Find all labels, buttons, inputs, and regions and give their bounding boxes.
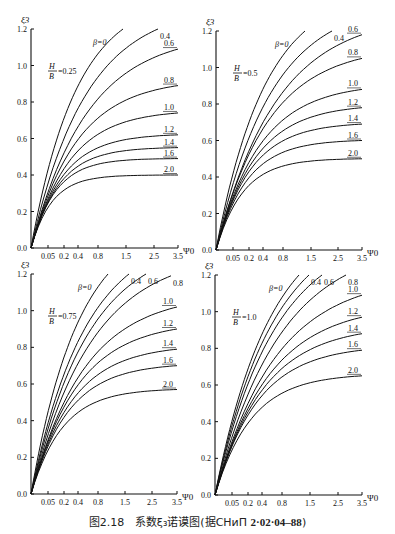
curve-label: 2.0 — [348, 366, 358, 375]
caption-title: 系数ξ₃诺谟图(据СНиП — [135, 516, 251, 529]
x-tick-label: 0.2 — [243, 499, 253, 508]
x-tick-label: 0.4 — [73, 498, 83, 507]
x-axis-label: Ψ0 — [367, 248, 379, 258]
y-tick-label: 0.2 — [201, 454, 211, 463]
x-tick-label: 0.8 — [277, 499, 287, 508]
curve-label: 2.0 — [163, 380, 173, 389]
curve-beta-1.0 — [31, 307, 177, 494]
y-axis-label: ξ3 — [21, 15, 30, 25]
y-tick-label: 0.0 — [17, 490, 27, 499]
param-numerator: H — [48, 62, 56, 71]
caption-close: ) — [302, 516, 306, 529]
chart-panel: 0.00.20.40.60.81.01.2ξ30.050.20.40.81.52… — [201, 261, 379, 508]
x-tick-label: 0.05 — [225, 499, 239, 508]
x-tick-label: 1.5 — [306, 254, 316, 263]
y-tick-label: 0.8 — [201, 344, 211, 353]
y-axis-label: ξ3 — [205, 261, 214, 271]
curve-label: 1.0 — [348, 285, 358, 294]
y-tick-label: 0.2 — [17, 208, 27, 217]
curve-label: β=0 — [274, 40, 288, 49]
nomogram-figure: 0.00.20.40.60.81.01.2ξ30.050.20.40.81.52… — [0, 0, 395, 534]
y-tick-label: 0.0 — [202, 246, 212, 255]
curve-beta-1.0 — [31, 113, 178, 248]
curve-label: 1.2 — [348, 307, 358, 316]
y-tick-label: 0.6 — [17, 135, 27, 144]
curve-label: β=0 — [268, 284, 282, 293]
x-tick-label: 2.5 — [333, 499, 343, 508]
param-value: =1.0 — [242, 313, 257, 322]
param-denominator: B — [233, 318, 238, 327]
curve-beta-0 — [31, 29, 123, 248]
param-denominator: B — [49, 317, 54, 326]
y-tick-label: 1.0 — [17, 307, 27, 316]
param-numerator: H — [48, 307, 56, 316]
y-tick-label: 1.2 — [17, 270, 27, 279]
y-axis-label: ξ3 — [21, 260, 30, 270]
curve-label: 0.4 — [334, 34, 344, 43]
y-tick-label: 0.0 — [17, 244, 27, 253]
x-tick-label: 3.5 — [357, 499, 367, 508]
x-tick-label: 3.5 — [173, 252, 183, 261]
x-tick-label: 0.05 — [226, 254, 240, 263]
x-tick-label: 0.4 — [257, 499, 267, 508]
y-tick-label: 1.0 — [201, 308, 211, 317]
x-tick-label: 0.2 — [59, 498, 69, 507]
x-tick-label: 0.4 — [73, 252, 83, 261]
curve-label: β=0 — [92, 38, 106, 47]
y-tick-label: 0.8 — [17, 98, 27, 107]
curve-label: 1.4 — [163, 339, 173, 348]
curve-label: 0.8 — [173, 279, 183, 288]
curve-label: 0.8 — [348, 48, 358, 57]
curve-label: 1.2 — [164, 125, 174, 134]
chart-panel: 0.00.20.40.60.81.01.2ξ30.050.20.40.81.52… — [17, 15, 195, 261]
param-denominator: B — [49, 72, 54, 81]
param-value: =0.5 — [243, 69, 258, 78]
x-axis-label: Ψ0 — [182, 492, 194, 502]
x-tick-label: 0.8 — [93, 498, 103, 507]
y-tick-label: 1.0 — [202, 64, 212, 73]
x-tick-label: 2.5 — [333, 254, 343, 263]
chart-panel: 0.00.20.40.60.81.01.2ξ30.050.20.40.81.52… — [17, 260, 194, 507]
curve-label: β=0 — [77, 283, 91, 292]
x-tick-label: 0.05 — [41, 252, 55, 261]
curve-label: 1.2 — [163, 319, 173, 328]
curve-label: 1.6 — [163, 356, 173, 365]
x-tick-label: 2.5 — [149, 252, 159, 261]
y-tick-label: 1.2 — [201, 271, 211, 280]
curve-label: 1.0 — [163, 297, 173, 306]
curve-label: 1.6 — [348, 340, 358, 349]
chart-panel: 0.00.20.40.60.81.01.2ξ30.050.20.40.81.52… — [202, 17, 379, 263]
curve-label: 1.6 — [348, 131, 358, 140]
curve-label: 1.0 — [164, 103, 174, 112]
x-axis-label: Ψ0 — [183, 246, 195, 256]
x-axis-label: Ψ0 — [367, 493, 379, 503]
param-numerator: H — [233, 64, 241, 73]
y-tick-label: 0.8 — [17, 343, 27, 352]
curve-label: 0.8 — [164, 76, 174, 85]
curve-label: 1.2 — [348, 98, 358, 107]
x-tick-label: 3.5 — [172, 498, 182, 507]
y-tick-label: 0.2 — [202, 210, 212, 219]
x-tick-label: 0.4 — [258, 254, 268, 263]
y-tick-label: 0.4 — [201, 418, 211, 427]
curve-label: 1.4 — [348, 114, 358, 123]
x-tick-label: 1.5 — [120, 498, 130, 507]
curve-label: 1.4 — [164, 138, 174, 147]
y-tick-label: 0.2 — [17, 453, 27, 462]
curve-label: 1.0 — [348, 79, 358, 88]
x-tick-label: 3.5 — [357, 254, 367, 263]
curve-beta-0.6 — [215, 275, 322, 495]
param-numerator: H — [232, 308, 240, 317]
y-tick-label: 1.2 — [202, 27, 212, 36]
y-tick-label: 0.4 — [17, 417, 27, 426]
curve-beta-2.0 — [31, 175, 178, 248]
y-tick-label: 0.4 — [202, 173, 212, 182]
curve-beta-0.4 — [31, 274, 129, 494]
x-tick-label: 0.2 — [59, 252, 69, 261]
y-tick-label: 0.6 — [201, 381, 211, 390]
x-tick-label: 2.5 — [147, 498, 157, 507]
caption-figure-number: 图2.18 — [89, 516, 125, 529]
curve-label: 1.4 — [348, 324, 358, 333]
x-tick-label: 0.8 — [278, 254, 288, 263]
curve-beta-0.8 — [216, 58, 362, 250]
